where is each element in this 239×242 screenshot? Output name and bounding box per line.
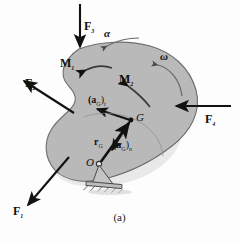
label-rG: rG	[94, 137, 103, 149]
label-F3-subscript: 3	[91, 28, 94, 34]
label-F4-subscript: 4	[212, 121, 215, 127]
label-G: G	[136, 112, 144, 123]
label-F4: F4	[205, 113, 215, 127]
label-M1-subscript: 1	[71, 65, 74, 71]
label-aGt-sub-t: t	[104, 101, 106, 107]
diagram-graphics	[0, 0, 239, 242]
figure-caption: (a)	[0, 211, 239, 223]
label-rG-subscript: G	[98, 143, 102, 149]
label-F2: F2	[25, 77, 35, 91]
label-M2-symbol: M	[119, 72, 130, 86]
label-M2-subscript: 2	[130, 81, 133, 87]
support-shadow	[88, 189, 132, 195]
label-M2: M2	[119, 73, 133, 87]
free-body-diagram: F3 F4 F2 F1 M1 M2 α ω G O (aG)t (aG)n rG…	[0, 0, 239, 242]
label-aGn-sub-n: n	[129, 146, 132, 152]
label-alpha: α	[104, 28, 110, 39]
label-omega: ω	[160, 51, 168, 62]
label-M1-symbol: M	[60, 56, 71, 70]
force-arrow-F1	[28, 157, 69, 205]
label-aGt: (aG)t	[88, 95, 106, 107]
label-M1: M1	[60, 57, 74, 71]
label-aGn: (aG)n	[113, 140, 132, 152]
label-O: O	[86, 157, 94, 168]
label-F2-subscript: 2	[32, 85, 35, 91]
label-F3: F3	[84, 20, 94, 34]
mass-center-dot	[129, 118, 134, 123]
